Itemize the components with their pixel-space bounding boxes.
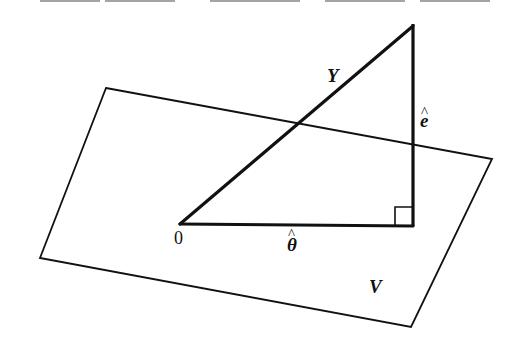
vector-y [180, 26, 413, 224]
vector-theta-hat [180, 224, 413, 226]
label-origin: 0 [174, 228, 183, 248]
label-y: Y [327, 65, 341, 86]
hat-e: ^ [421, 104, 428, 120]
right-angle-marker [395, 207, 413, 226]
label-plane-v: V [369, 276, 383, 297]
projection-diagram: Y e ^ θ ^ 0 V [0, 0, 506, 340]
hat-theta: ^ [288, 226, 295, 242]
